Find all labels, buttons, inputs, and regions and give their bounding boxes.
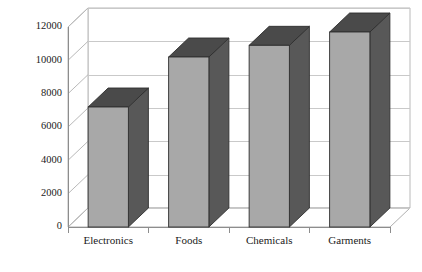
x-tick-label: Chemicals: [246, 234, 292, 246]
y-tick-label: 12000: [36, 20, 62, 31]
y-tick-label: 4000: [41, 154, 62, 165]
x-tick-label: Garments: [328, 234, 371, 246]
bar-front-face: [88, 107, 128, 227]
bar-side-face: [128, 88, 148, 227]
bar-front-face: [249, 45, 289, 227]
bar-side-face: [370, 13, 390, 227]
clipped-footer-text: ___ _ _ _ _____ ___ _ __ _ _ ___ _ __ _ …: [0, 265, 422, 272]
chart-canvas: 0 2000 4000 6000 8000 10000 12000 Electr…: [0, 0, 422, 272]
y-tick-label: 8000: [41, 87, 62, 98]
y-tick-label: 2000: [41, 187, 62, 198]
bar-garments: [330, 13, 390, 227]
y-tick-label: 10000: [36, 54, 62, 65]
bar-chart-figure: 0 2000 4000 6000 8000 10000 12000 Electr…: [0, 0, 422, 272]
y-tick-label: 6000: [41, 120, 62, 131]
x-axis-category-ticks: [68, 227, 390, 233]
bar-foods: [169, 38, 229, 227]
y-axis-tick-labels: 0 2000 4000 6000 8000 10000 12000: [36, 20, 62, 231]
x-tick-label: Foods: [175, 234, 202, 246]
x-axis-category-labels: ElectronicsFoodsChemicalsGarments: [84, 234, 372, 246]
bar-electronics: [88, 88, 148, 227]
bar-front-face: [330, 32, 370, 227]
bar-side-face: [289, 26, 309, 227]
x-tick-label: Electronics: [84, 234, 133, 246]
y-tick-label: 0: [57, 220, 62, 231]
bar-front-face: [169, 57, 209, 227]
bar-chemicals: [249, 26, 309, 227]
bar-side-face: [209, 38, 229, 227]
